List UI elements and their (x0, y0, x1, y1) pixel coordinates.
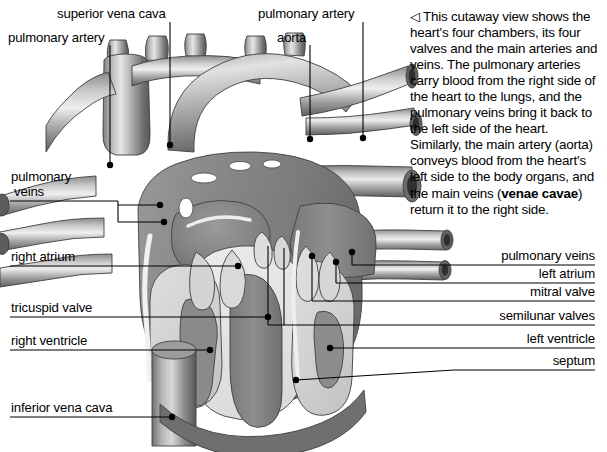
label-left-atrium: left atrium (539, 267, 595, 281)
label-inferior-vena-cava: inferior vena cava (11, 401, 112, 415)
left-pointing-triangle-icon: ◁ (410, 9, 420, 24)
label-right-atrium: right atrium (11, 250, 75, 264)
label-semilunar-valves: semilunar valves (499, 309, 595, 323)
label-superior-vena-cava: superior vena cava (57, 7, 166, 21)
label-pulmonary-veins-left-line2: veins (14, 185, 44, 199)
label-left-ventricle: left ventricle (527, 332, 595, 346)
diagram-canvas: superior vena cava pulmonary artery pulm… (0, 0, 607, 452)
caption-text-before-bold: This cutaway view shows the heart's four… (410, 9, 597, 201)
label-right-ventricle: right ventricle (11, 334, 87, 348)
caption-block: ◁ This cutaway view shows the heart's fo… (410, 9, 602, 218)
caption-bold-term: venae cavae (501, 186, 578, 201)
label-tricuspid-valve: tricuspid valve (11, 301, 92, 315)
label-septum: septum (553, 354, 595, 368)
label-pulmonary-artery-top: pulmonary artery (258, 7, 355, 21)
label-pulmonary-veins-left-line1: pulmonary (11, 170, 71, 184)
label-mitral-valve: mitral valve (530, 285, 595, 299)
label-pulmonary-artery-left: pulmonary artery (8, 31, 105, 45)
label-aorta: aorta (277, 31, 306, 45)
label-pulmonary-veins-right: pulmonary veins (501, 249, 595, 263)
